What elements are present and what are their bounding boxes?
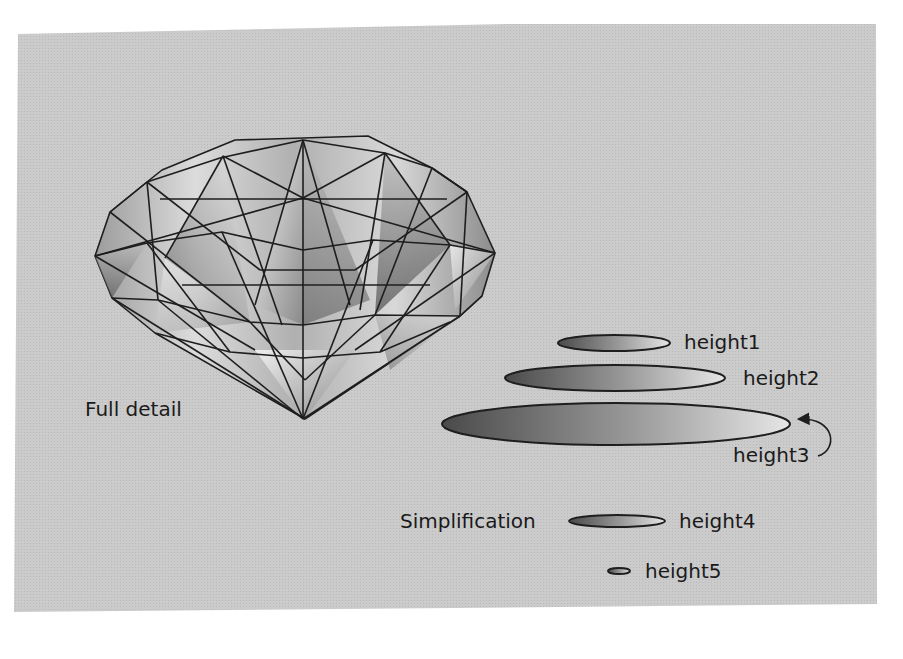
height5-label: height5: [645, 559, 721, 583]
ellipse-height5: [608, 568, 630, 574]
height3-label: height3: [733, 443, 809, 467]
ellipse-height2: [505, 365, 725, 391]
height1-label: height1: [684, 330, 760, 354]
ellipse-height1: [558, 335, 670, 351]
ellipse-height4: [569, 515, 665, 527]
height4-label: height4: [679, 509, 755, 533]
simplification-label: Simplification: [400, 509, 536, 533]
ellipse-height3: [442, 403, 790, 445]
full-detail-label: Full detail: [85, 397, 182, 421]
height2-label: height2: [743, 366, 819, 390]
lod-diagram: Full detail height1 height2 height3 heig…: [0, 0, 903, 659]
